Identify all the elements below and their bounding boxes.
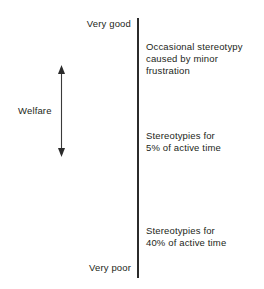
annotation-line: Occasional stereotypy bbox=[146, 41, 262, 53]
arrowhead-down bbox=[58, 148, 65, 157]
annotation-line: 5% of active time bbox=[146, 142, 262, 154]
annotation-line: Stereotypies for bbox=[146, 225, 262, 237]
welfare-axis-label: Welfare bbox=[18, 105, 64, 116]
annotation-line: frustration bbox=[146, 65, 262, 77]
annotation-stereotypies-40-percent: Stereotypies for 40% of active time bbox=[146, 225, 262, 249]
arrowhead-up bbox=[58, 65, 65, 74]
annotation-line: Stereotypies for bbox=[146, 130, 262, 142]
welfare-axis-line bbox=[137, 18, 139, 278]
annotation-occasional-stereotypy: Occasional stereotypy caused by minor fr… bbox=[146, 41, 262, 76]
annotation-line: caused by minor bbox=[146, 53, 262, 65]
welfare-scale-figure: Very good Very poor Welfare Occasional s… bbox=[0, 0, 264, 289]
annotation-stereotypies-5-percent: Stereotypies for 5% of active time bbox=[146, 130, 262, 154]
scale-label-very-good: Very good bbox=[11, 18, 131, 29]
annotation-line: 40% of active time bbox=[146, 237, 262, 249]
scale-label-very-poor: Very poor bbox=[11, 262, 131, 273]
